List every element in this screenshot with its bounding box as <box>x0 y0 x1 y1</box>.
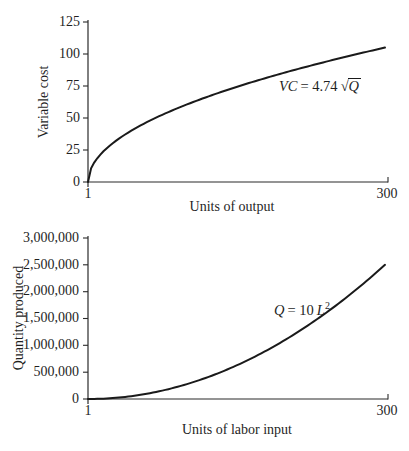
x-axis-title: Units of output <box>132 199 332 215</box>
x-tick-label: 300 <box>367 186 407 202</box>
equation-exponent: 2 <box>325 300 330 311</box>
y-axis-title: Quantity produced <box>11 248 29 388</box>
x-tick-label: 1 <box>68 186 108 202</box>
y-tick-label: 125 <box>10 14 80 30</box>
x-tick-label: 300 <box>367 403 407 419</box>
radicand: Q <box>348 78 361 94</box>
variable-cost-chart: 125 100 75 50 25 0 1 300 Units of output… <box>0 0 409 225</box>
curve-equation: Q= 10L2 <box>237 301 367 319</box>
x-tick-label: 1 <box>68 403 108 419</box>
equation-base: L <box>317 302 325 318</box>
q-curve <box>88 265 385 399</box>
x-axis-title: Units of labor input <box>137 422 337 438</box>
y-axis-title: Variable cost <box>36 32 54 172</box>
equation-lhs: Q <box>274 302 284 318</box>
figure-two-charts: 125 100 75 50 25 0 1 300 Units of output… <box>0 0 409 451</box>
equation-mid: = 10 <box>288 302 314 318</box>
equation-lhs: VC <box>279 78 298 94</box>
production-function-chart: 3,000,000 2,500,000 2,000,000 1,500,000 … <box>0 225 409 451</box>
y-tick-label: 3,000,000 <box>9 230 79 246</box>
curve-equation: VC= 4.74√Q <box>255 77 385 95</box>
vc-curve <box>88 48 385 182</box>
equation-mid: = 4.74 <box>300 78 337 94</box>
